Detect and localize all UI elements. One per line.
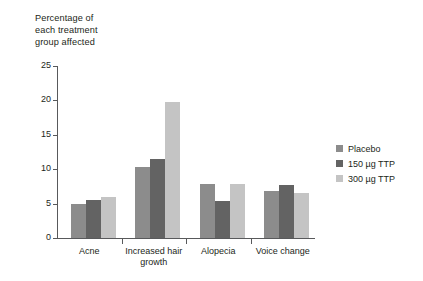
bar-group bbox=[264, 66, 309, 238]
legend-swatch-icon bbox=[336, 145, 343, 152]
bar bbox=[71, 204, 86, 238]
x-axis-label-line: Acne bbox=[57, 246, 122, 257]
x-axis-label: Acne bbox=[57, 246, 122, 257]
plot-area: 0510152025 bbox=[57, 66, 315, 239]
x-axis-label-line: Increased hair bbox=[122, 246, 187, 257]
bar bbox=[150, 159, 165, 238]
bar bbox=[200, 184, 215, 238]
x-axis-label-line: growth bbox=[122, 257, 187, 268]
bar-group bbox=[200, 66, 245, 238]
legend-swatch-icon bbox=[336, 175, 343, 182]
x-axis-separator-tick bbox=[186, 239, 187, 244]
y-tick-mark bbox=[53, 100, 57, 101]
x-axis-label: Alopecia bbox=[186, 246, 251, 257]
y-axis-line bbox=[57, 66, 58, 239]
y-tick-label: 20 bbox=[41, 94, 51, 104]
bar-chart-figure: Percentage of each treatment group affec… bbox=[0, 0, 423, 281]
y-tick-mark bbox=[53, 204, 57, 205]
x-axis-label-line: Voice change bbox=[251, 246, 316, 257]
bar bbox=[264, 191, 279, 238]
x-axis-separator-tick bbox=[251, 239, 252, 244]
legend-item: 300 µg TTP bbox=[336, 172, 422, 185]
bar bbox=[279, 185, 294, 238]
legend-swatch-icon bbox=[336, 160, 343, 167]
bar bbox=[135, 167, 150, 238]
bar bbox=[165, 102, 180, 238]
legend-label: Placebo bbox=[348, 144, 381, 154]
chart-legend: Placebo150 µg TTP300 µg TTP bbox=[336, 142, 422, 187]
y-tick-label: 5 bbox=[46, 198, 51, 208]
legend-item: 150 µg TTP bbox=[336, 157, 422, 170]
bar-group bbox=[135, 66, 180, 238]
y-tick-mark bbox=[53, 135, 57, 136]
bar bbox=[215, 201, 230, 238]
y-tick-label: 10 bbox=[41, 163, 51, 173]
y-tick-label: 15 bbox=[41, 129, 51, 139]
legend-label: 300 µg TTP bbox=[348, 174, 395, 184]
y-tick-mark bbox=[53, 238, 57, 239]
x-axis-label-line: Alopecia bbox=[186, 246, 251, 257]
bar bbox=[86, 200, 101, 238]
x-axis-label: Voice change bbox=[251, 246, 316, 257]
bar-group bbox=[71, 66, 116, 238]
y-axis-caption: Percentage of each treatment group affec… bbox=[35, 12, 98, 49]
y-tick-label: 25 bbox=[41, 60, 51, 70]
x-axis-label: Increased hairgrowth bbox=[122, 246, 187, 268]
bar bbox=[230, 184, 245, 238]
legend-item: Placebo bbox=[336, 142, 422, 155]
y-tick-mark bbox=[53, 66, 57, 67]
y-tick-mark bbox=[53, 169, 57, 170]
y-tick-label: 0 bbox=[46, 232, 51, 242]
bar bbox=[101, 197, 116, 238]
x-axis-separator-tick bbox=[122, 239, 123, 244]
bar bbox=[294, 193, 309, 238]
legend-label: 150 µg TTP bbox=[348, 159, 395, 169]
